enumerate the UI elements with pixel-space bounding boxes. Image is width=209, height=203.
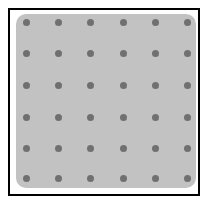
grid-dot[interactable]	[55, 175, 62, 182]
grid-dot[interactable]	[23, 50, 30, 57]
grid-dot[interactable]	[55, 82, 62, 89]
grid-dot[interactable]	[152, 114, 159, 121]
grid-dot[interactable]	[23, 82, 30, 89]
grid-dot[interactable]	[184, 175, 191, 182]
grid-dot[interactable]	[55, 50, 62, 57]
grid-dot[interactable]	[55, 145, 62, 152]
grid-dot[interactable]	[120, 175, 127, 182]
grid-dot[interactable]	[184, 145, 191, 152]
grid-dot[interactable]	[184, 19, 191, 26]
grid-dot[interactable]	[120, 82, 127, 89]
grid-dot[interactable]	[152, 50, 159, 57]
grid-dot[interactable]	[152, 175, 159, 182]
grid-dot[interactable]	[23, 175, 30, 182]
grid-dot[interactable]	[184, 82, 191, 89]
grid-dot[interactable]	[55, 19, 62, 26]
grid-dot[interactable]	[23, 145, 30, 152]
grid-dot[interactable]	[120, 19, 127, 26]
grid-dot[interactable]	[152, 19, 159, 26]
grid-dot[interactable]	[120, 50, 127, 57]
grid-dot[interactable]	[87, 114, 94, 121]
grid-dot[interactable]	[184, 114, 191, 121]
grid-dot[interactable]	[23, 19, 30, 26]
grid-dot[interactable]	[184, 50, 191, 57]
grid-dot[interactable]	[87, 145, 94, 152]
grid-dot[interactable]	[55, 114, 62, 121]
grid-dot[interactable]	[120, 145, 127, 152]
grid-dot[interactable]	[87, 175, 94, 182]
grid-dot[interactable]	[23, 114, 30, 121]
grid-dot[interactable]	[87, 50, 94, 57]
grid-dot[interactable]	[152, 82, 159, 89]
grid-dot[interactable]	[120, 114, 127, 121]
grid-dot[interactable]	[152, 145, 159, 152]
grid-dot[interactable]	[87, 82, 94, 89]
game-board[interactable]	[16, 14, 196, 188]
grid-dot[interactable]	[87, 19, 94, 26]
